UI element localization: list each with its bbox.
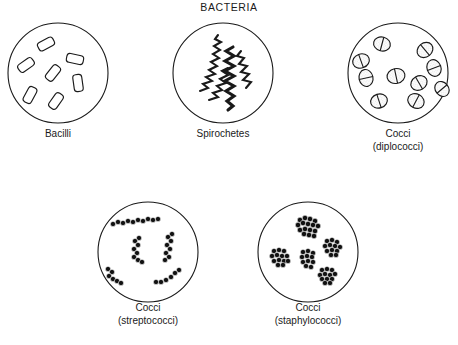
panel-diplococci: Cocci (diplococci) — [346, 21, 450, 125]
caption-label: Bacilli — [45, 128, 71, 139]
caption-streptococci: Cocci (streptococci) — [118, 301, 178, 327]
caption-bacilli: Bacilli — [45, 127, 71, 140]
caption-staphylococci: Cocci (staphylococci) — [275, 301, 342, 327]
panel-spirochetes: Spirochetes — [171, 21, 275, 125]
caption-sublabel: (diplococci) — [373, 140, 424, 153]
dish-staphylococci — [256, 200, 360, 304]
dish-streptococci — [96, 200, 200, 304]
caption-sublabel: (staphylococci) — [275, 314, 342, 327]
petri-dish-outline — [173, 23, 273, 123]
dish-bacilli — [6, 21, 110, 125]
caption-diplococci: Cocci (diplococci) — [373, 127, 424, 153]
dish-spirochetes — [171, 21, 275, 125]
spirochetes-illustration — [171, 21, 275, 125]
dish-diplococci — [346, 21, 450, 125]
caption-label: Cocci — [385, 128, 410, 139]
streptococci-illustration — [96, 200, 200, 304]
staphylococci-illustration — [256, 200, 360, 304]
caption-spirochetes: Spirochetes — [197, 127, 250, 140]
caption-label: Cocci — [135, 302, 160, 313]
caption-label: Spirochetes — [197, 128, 250, 139]
caption-label: Cocci — [295, 302, 320, 313]
panel-bacilli: Bacilli — [6, 21, 110, 125]
caption-sublabel: (streptococci) — [118, 314, 178, 327]
figure-title: BACTERIA — [0, 1, 458, 13]
bacteria-figure: BACTERIA Bacilli — [0, 0, 458, 345]
diplococci-illustration — [346, 21, 450, 125]
bacilli-illustration — [6, 21, 110, 125]
bacillus-rod — [72, 74, 83, 92]
panel-streptococci: Cocci (streptococci) — [96, 200, 200, 304]
panel-staphylococci: Cocci (staphylococci) — [256, 200, 360, 304]
